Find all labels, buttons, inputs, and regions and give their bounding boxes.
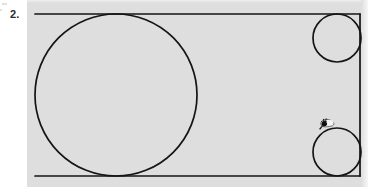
small-circle-top-right bbox=[313, 14, 361, 62]
figure-screenshot: 2. bbox=[0, 0, 375, 187]
large-circle bbox=[35, 14, 197, 176]
geometry-drawing bbox=[0, 0, 375, 187]
ink-smudge-icon bbox=[313, 116, 339, 138]
